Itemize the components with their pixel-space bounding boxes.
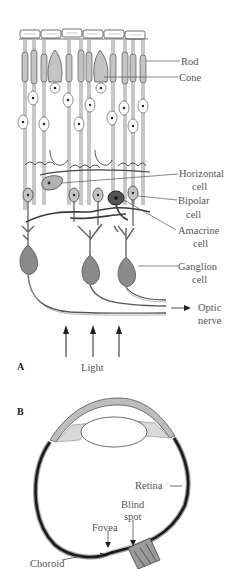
photoreceptor-nuclei	[18, 83, 148, 133]
label-optic: Optic	[198, 302, 222, 313]
label-horizontal: Horizontal	[179, 168, 224, 179]
light-arrowheads	[63, 325, 122, 334]
optic-nerve-arrow	[171, 305, 191, 311]
label-bipolar-cell: cell	[186, 209, 201, 220]
label-blind: Blind	[121, 499, 145, 510]
label-fovea: Fovea	[92, 522, 118, 533]
lens	[81, 417, 147, 447]
label-horizontal-cell: cell	[192, 181, 207, 192]
horizontal-cell-nucleus	[48, 182, 51, 185]
panel-b-eye: B Retina	[17, 398, 188, 569]
label-amacrine: Amacrine	[178, 225, 220, 236]
horizontal-cell	[42, 176, 63, 190]
label-nerve: nerve	[198, 315, 222, 326]
rod-cells	[22, 50, 146, 84]
retina-layer	[38, 439, 185, 554]
label-amacrine-cell: cell	[193, 238, 208, 249]
lateral-processes	[26, 205, 150, 222]
panel-a-retina: Rod Cone Horizontal cell Bipolar cell Am…	[17, 29, 224, 373]
label-spot: spot	[124, 511, 142, 522]
ganglion-dendrites	[22, 222, 134, 257]
label-ganglion: Ganglion	[178, 261, 218, 272]
synaptic-layer	[25, 150, 150, 175]
ganglion-cells	[20, 245, 136, 287]
sclera	[36, 438, 189, 557]
label-rod: Rod	[181, 56, 199, 67]
light-arrows	[66, 330, 119, 357]
panel-letter-b: B	[17, 406, 24, 417]
label-choroid: Choroid	[30, 558, 65, 569]
pigment-epithelium	[19, 29, 148, 39]
label-light: Light	[81, 362, 104, 373]
label-cone: Cone	[179, 72, 202, 83]
panel-letter-a: A	[17, 361, 25, 372]
label-bipolar: Bipolar	[178, 195, 210, 206]
label-ganglion-cell: cell	[192, 274, 207, 285]
label-retina: Retina	[135, 480, 163, 491]
choroid-layer	[36, 438, 189, 557]
retina-eye-diagram: Rod Cone Horizontal cell Bipolar cell Am…	[0, 0, 244, 569]
